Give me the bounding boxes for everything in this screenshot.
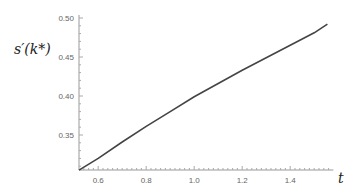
y-tick-label: 0.45: [58, 53, 74, 62]
y-tick-label: 0.40: [58, 92, 74, 101]
y-tick-label: 0.50: [58, 14, 74, 23]
y-axis: 0.350.400.450.50: [58, 14, 83, 170]
x-tick-label: 0.8: [141, 176, 153, 185]
x-tick-label: 0.6: [93, 176, 105, 185]
series-line: [79, 24, 327, 170]
x-tick-label: 1.0: [189, 176, 201, 185]
data-series: [79, 24, 327, 170]
y-axis-title: s′(k*): [14, 41, 51, 57]
line-chart: 0.350.400.450.50 0.60.81.01.21.4 s′(k*) …: [0, 0, 359, 195]
x-tick-label: 1.2: [237, 176, 249, 185]
x-axis-title: t: [338, 170, 344, 186]
y-tick-label: 0.35: [58, 131, 74, 140]
x-tick-label: 1.4: [285, 176, 297, 185]
x-axis: 0.60.81.01.21.4: [79, 166, 333, 185]
